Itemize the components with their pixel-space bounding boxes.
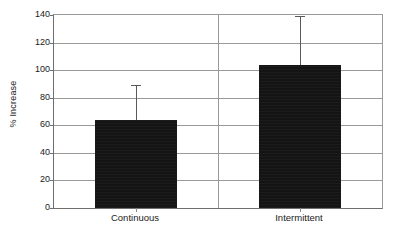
error-bar-cap [131, 85, 141, 86]
y-axis-tick-label: 80 [24, 92, 50, 101]
y-axis-tick-labels: 020406080100120140 [22, 0, 50, 237]
bar [259, 65, 341, 208]
y-axis-tick-mark [50, 15, 54, 16]
y-axis-tick-label: 100 [24, 65, 50, 74]
y-axis-tick-mark [50, 125, 54, 126]
y-axis-tick-mark [50, 153, 54, 154]
y-axis-tick-label: 140 [24, 10, 50, 19]
y-axis-tick-mark [50, 208, 54, 209]
y-axis-tick-label: 40 [24, 147, 50, 156]
y-axis-title: % Increase [2, 0, 24, 207]
y-axis-title-label: % Increase [8, 80, 18, 127]
x-axis-tick-labels: ContinuousIntermittent [53, 212, 381, 234]
y-axis-tick-label: 60 [24, 120, 50, 129]
y-axis-tick-mark [50, 43, 54, 44]
y-axis-tick-mark [50, 70, 54, 71]
y-axis-tick-label: 20 [24, 175, 50, 184]
plot-area [53, 14, 383, 209]
x-axis-tick-label: Continuous [111, 212, 159, 223]
y-axis-tick-mark [50, 180, 54, 181]
category-divider [218, 15, 219, 208]
x-axis-tick-label: Intermittent [275, 212, 323, 223]
error-bar-cap [295, 16, 305, 17]
error-bar-stem [300, 16, 301, 64]
y-axis-tick-label: 0 [24, 203, 50, 212]
error-bar-stem [136, 85, 137, 119]
y-axis-tick-mark [50, 98, 54, 99]
bar [95, 120, 177, 208]
bar-chart-figure: % Increase 020406080100120140 Continuous… [0, 0, 396, 237]
y-axis-tick-label: 120 [24, 37, 50, 46]
